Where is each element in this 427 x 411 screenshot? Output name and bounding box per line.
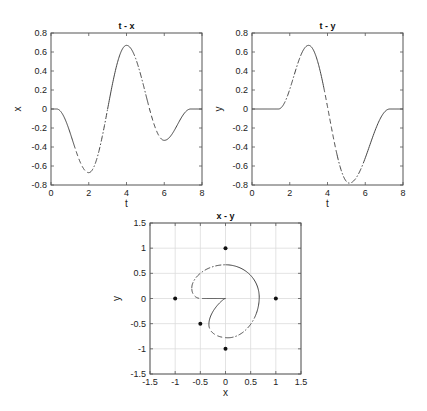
y-axis-label: y [213, 107, 224, 112]
x-tick-label: 4 [124, 188, 129, 198]
y-tick-label: 0.6 [34, 47, 47, 57]
x-tick-label: 0 [249, 188, 254, 198]
x-tick-label: 0 [223, 377, 228, 387]
x-tick-label: 1 [273, 377, 278, 387]
point-marker [224, 246, 228, 250]
y-tick-label: 0.2 [235, 85, 248, 95]
x-tick-label: 1.5 [295, 377, 308, 387]
plot-t-y: 02468-0.8-0.6-0.4-0.200.20.40.60.8t - yt… [213, 21, 406, 209]
y-tick-label: -1.5 [130, 369, 146, 379]
x-tick-label: 8 [199, 188, 204, 198]
y-tick-label: 0.8 [34, 28, 47, 38]
y-tick-label: -0.2 [232, 123, 248, 133]
y-axis-label: x [12, 107, 23, 112]
point-marker [274, 297, 278, 301]
chart-title: x - y [216, 211, 234, 221]
chart-title: t - x [118, 21, 134, 31]
x-axis-label: t [326, 198, 329, 209]
y-tick-label: 0.2 [34, 85, 47, 95]
y-tick-label: -0.2 [31, 123, 47, 133]
y-tick-label: -1 [138, 344, 146, 354]
y-tick-label: 0 [42, 104, 47, 114]
y-tick-label: 0 [243, 104, 248, 114]
y-tick-label: -0.8 [31, 180, 47, 190]
y-tick-label: 0.4 [34, 66, 47, 76]
x-tick-label: -1 [171, 377, 179, 387]
y-tick-label: 1 [141, 243, 146, 253]
x-tick-label: 0 [48, 188, 53, 198]
x-axis-label: x [223, 387, 228, 398]
x-tick-label: 6 [162, 188, 167, 198]
point-marker [224, 347, 228, 351]
x-tick-label: 2 [86, 188, 91, 198]
y-tick-label: -0.5 [130, 319, 146, 329]
y-tick-label: -0.6 [232, 161, 248, 171]
y-tick-label: 0.5 [133, 268, 146, 278]
point-marker [173, 297, 177, 301]
y-tick-label: -0.8 [232, 180, 248, 190]
point-marker [198, 322, 202, 326]
x-axis-label: t [125, 198, 128, 209]
chart-title: t - y [319, 21, 335, 31]
y-tick-label: 0.6 [235, 47, 248, 57]
y-axis-label: y [111, 296, 122, 301]
y-tick-label: 0.8 [235, 28, 248, 38]
x-tick-label: 8 [400, 188, 405, 198]
y-tick-label: -0.6 [31, 161, 47, 171]
y-tick-label: 1.5 [133, 218, 146, 228]
plot-t-x: 02468-0.8-0.6-0.4-0.200.20.40.60.8t - xt… [12, 21, 205, 209]
x-tick-label: -0.5 [193, 377, 209, 387]
x-tick-label: 2 [287, 188, 292, 198]
y-tick-label: -0.4 [232, 142, 248, 152]
x-tick-label: 6 [363, 188, 368, 198]
y-tick-label: 0.4 [235, 66, 248, 76]
figure: 02468-0.8-0.6-0.4-0.200.20.40.60.8t - xt… [0, 0, 427, 411]
y-tick-label: -0.4 [31, 142, 47, 152]
x-tick-label: 4 [325, 188, 330, 198]
y-tick-label: 0 [141, 294, 146, 304]
x-tick-label: 0.5 [244, 377, 257, 387]
plot-x-y: -1.5-1-0.500.511.5-1.5-1-0.500.511.5x - … [111, 211, 307, 398]
